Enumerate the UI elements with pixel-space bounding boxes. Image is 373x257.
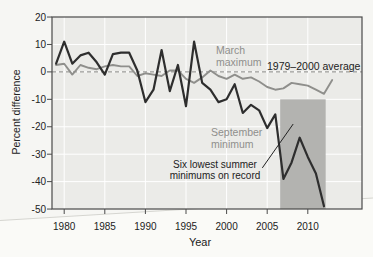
x-tick-label: 2000 — [215, 221, 238, 232]
x-tick-label: 1980 — [53, 221, 76, 232]
march-maximum-label-line1: March — [216, 45, 262, 57]
x-tick-label: 1985 — [94, 221, 117, 232]
x-axis-title: Year — [170, 236, 230, 248]
y-axis-title: Percent difference — [10, 42, 22, 182]
y-tick-label: -50 — [32, 204, 47, 215]
y-tick-label: -30 — [32, 149, 47, 160]
x-tick-label: 2005 — [256, 221, 279, 232]
lowest-minimums-highlight-box — [280, 99, 325, 209]
lowest-minimums-label-line1: Six lowest summer — [154, 160, 276, 171]
september-minimum-label-line2: minimum — [211, 139, 262, 151]
march-maximum-label-line2: maximum — [216, 57, 262, 69]
sea-ice-chart-figure: 198019851990199520002005201020100-10-20-… — [0, 0, 373, 257]
y-tick-label: 10 — [35, 39, 47, 50]
average-reference-label: 1979–2000 average — [267, 60, 360, 72]
y-tick-label: 20 — [35, 12, 47, 23]
lowest-minimums-label: Six lowest summer minimums on record — [154, 160, 276, 181]
september-minimum-label-line1: September — [211, 127, 262, 139]
x-tick-label: 1995 — [175, 221, 198, 232]
y-tick-label: -40 — [32, 176, 47, 187]
y-tick-label: -20 — [32, 121, 47, 132]
march-maximum-label: March maximum — [216, 45, 262, 68]
september-minimum-label: September minimum — [211, 127, 262, 150]
chart-canvas: 198019851990199520002005201020100-10-20-… — [0, 0, 373, 257]
y-tick-label: -10 — [32, 94, 47, 105]
x-tick-label: 2010 — [297, 221, 320, 232]
y-tick-label: 0 — [40, 66, 46, 77]
lowest-minimums-label-line2: minimums on record — [154, 171, 276, 182]
x-tick-label: 1990 — [134, 221, 157, 232]
